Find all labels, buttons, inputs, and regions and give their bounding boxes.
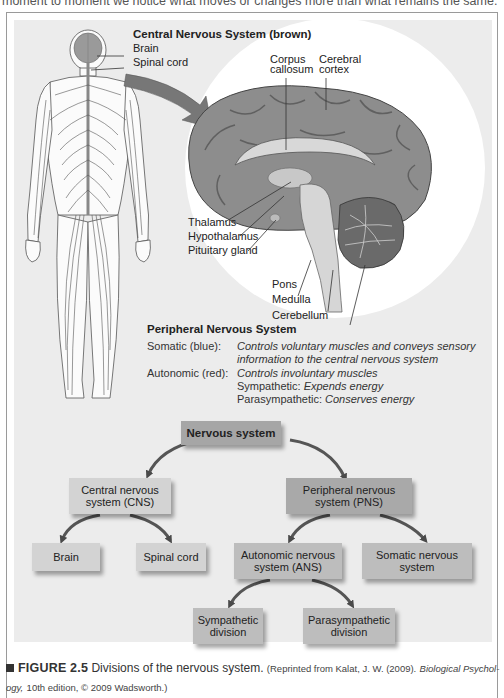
flow-box-somatic: Somatic nervoussystem	[362, 543, 472, 579]
label-thalamus: Thalamus	[188, 216, 236, 228]
flow-box-brain: Brain	[32, 543, 100, 571]
flow-box-sympathetic: Sympatheticdivision	[193, 608, 263, 644]
label-corpus-callosum: Corpus callosum	[270, 54, 313, 74]
pns-description: Peripheral Nervous System Somatic (blue)…	[147, 323, 487, 406]
flow-box-pns: Peripheral nervoussystem (PNS)	[286, 478, 412, 514]
flow-box-cns: Central nervoussystem (CNS)	[69, 478, 171, 514]
label-hypothalamus: Hypothalamus	[188, 230, 258, 242]
flow-box-spinal-cord: Spinal cord	[136, 543, 206, 571]
pns-autonomic-row: Autonomic (red): Controls involuntary mu…	[147, 367, 487, 407]
flow-box-nervous-system: Nervous system	[181, 421, 281, 445]
label-pituitary-gland: Pituitary gland	[188, 244, 258, 256]
flow-box-parasympathetic: Parasympatheticdivision	[303, 608, 395, 644]
figure-title: Divisions of the nervous system.	[91, 661, 263, 675]
label-cerebral-cortex: Cerebral cortex	[319, 54, 361, 74]
flow-box-ans: Autonomic nervoussystem (ANS)	[234, 543, 342, 579]
label-cerebellum: Cerebellum	[272, 309, 328, 321]
label-brain: Brain	[133, 42, 159, 54]
label-medulla: Medulla	[272, 293, 311, 305]
pns-somatic-row: Somatic (blue): Controls voluntary muscl…	[147, 340, 487, 366]
figure-number: FIGURE 2.5	[18, 661, 88, 675]
pns-title: Peripheral Nervous System	[147, 323, 487, 336]
caption-square-icon	[6, 664, 14, 672]
label-spinal-cord: Spinal cord	[133, 56, 188, 68]
figure-caption: FIGURE 2.5 Divisions of the nervous syst…	[6, 659, 500, 697]
label-pons: Pons	[272, 278, 297, 290]
cns-title: Central Nervous System (brown)	[133, 28, 311, 40]
